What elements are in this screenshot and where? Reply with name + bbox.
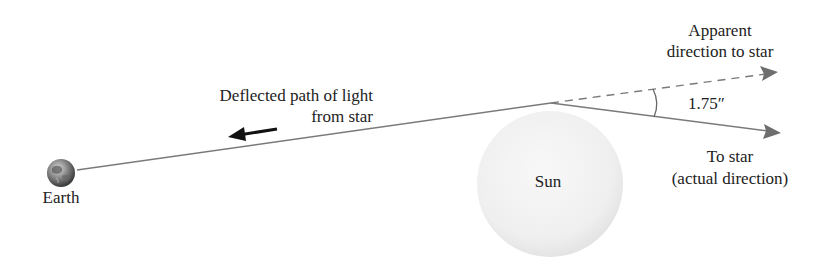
deflected-path-label-line1: Deflected path of light	[150, 85, 373, 106]
left-arrow-icon	[228, 127, 277, 141]
apparent-direction-line	[551, 74, 766, 103]
apparent-direction-label-line1: Apparent	[630, 20, 810, 41]
actual-arrowhead-icon	[763, 124, 781, 139]
earth-globe-icon	[47, 159, 75, 187]
apparent-arrowhead-icon	[760, 66, 778, 81]
deflection-angle-label: 1.75″	[688, 93, 725, 114]
apparent-direction-label-line2: direction to star	[630, 41, 810, 62]
actual-direction-label-line1: To star	[640, 146, 820, 167]
sun-label: Sun	[520, 171, 576, 192]
earth-label: Earth	[30, 187, 92, 208]
angle-arc	[653, 89, 657, 117]
deflected-path-label-line2: from star	[150, 106, 373, 127]
actual-direction-label-line2: (actual direction)	[640, 168, 820, 189]
